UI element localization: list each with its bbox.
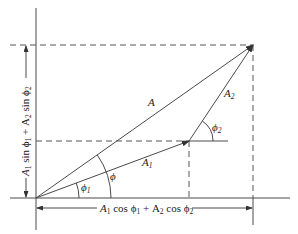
phi1-label: ϕ1: [81, 181, 90, 195]
horizontal-dimension-label: A1 cos ϕ1 + A2 cos ϕ2: [99, 202, 194, 216]
vertical-dimension-label: A1 sin ϕ1 + A2 sin ϕ2: [19, 86, 33, 177]
vector-a-label: A: [147, 96, 155, 108]
phi1-arc: [76, 183, 79, 198]
vector-a: [36, 45, 253, 198]
phi-label: ϕ: [110, 170, 116, 182]
phi2-label: ϕ2: [212, 121, 222, 135]
phasor-diagram: A A1 A2 ϕ ϕ1 ϕ2 A1 cos ϕ1 + A2 cos ϕ2 A1…: [0, 0, 298, 234]
phi-arc: [97, 155, 111, 198]
vector-a2-label: A2: [223, 87, 235, 101]
vector-a1-label: A1: [141, 156, 152, 170]
